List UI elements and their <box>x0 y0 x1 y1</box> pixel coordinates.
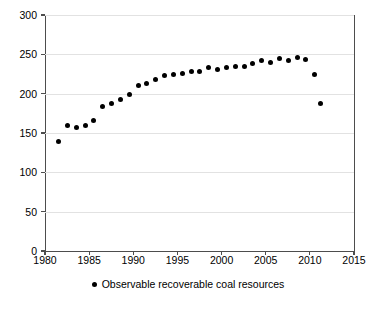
data-point <box>189 69 194 74</box>
data-point <box>242 64 247 69</box>
data-point <box>295 55 300 60</box>
gridline <box>45 54 354 55</box>
x-tick-label: 2015 <box>334 255 374 266</box>
y-tick-mark <box>41 14 45 15</box>
data-point <box>268 60 273 65</box>
gridline <box>45 133 354 134</box>
gridline <box>45 94 354 95</box>
y-tick-mark <box>41 172 45 173</box>
x-tick-label: 2000 <box>202 255 242 266</box>
gridline <box>45 212 354 213</box>
legend-label: Observable recoverable coal resources <box>102 279 285 290</box>
chart-legend: Observable recoverable coal resources <box>0 279 376 290</box>
data-point <box>180 71 185 76</box>
x-tick-label: 2005 <box>246 255 286 266</box>
data-point <box>286 58 291 63</box>
data-point <box>83 123 88 128</box>
data-point <box>127 92 132 97</box>
y-tick-label: 300 <box>0 10 37 21</box>
data-point <box>215 67 220 72</box>
y-tick-mark <box>41 93 45 94</box>
x-tick-label: 1990 <box>113 255 153 266</box>
data-point <box>65 123 70 128</box>
data-point <box>303 57 308 62</box>
x-tick-label: 1985 <box>69 255 109 266</box>
y-tick-label: 200 <box>0 89 37 100</box>
y-tick-mark <box>41 211 45 212</box>
data-point <box>136 83 141 88</box>
data-point <box>74 125 79 130</box>
y-tick-label: 50 <box>0 207 37 218</box>
data-point <box>277 56 282 61</box>
y-tick-mark <box>41 132 45 133</box>
x-tick-label: 1980 <box>25 255 65 266</box>
y-tick-mark <box>41 54 45 55</box>
y-tick-label: 250 <box>0 49 37 60</box>
data-point <box>109 101 114 106</box>
gridline <box>45 15 354 16</box>
x-tick-label: 1995 <box>157 255 197 266</box>
gridline <box>45 172 354 173</box>
y-tick-label: 100 <box>0 167 37 178</box>
chart-container: 050100150200250300 198019851990199520002… <box>0 0 376 311</box>
legend-dot-icon <box>92 282 97 287</box>
x-tick-label: 2010 <box>290 255 330 266</box>
y-tick-label: 150 <box>0 128 37 139</box>
